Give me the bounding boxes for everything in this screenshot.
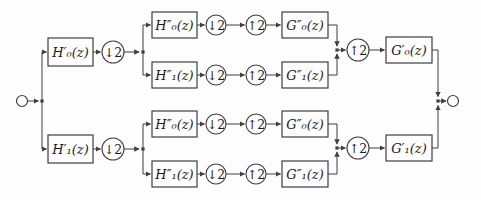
upsampler-label: ↑2: [247, 117, 265, 132]
upsampler-label: ↑2: [349, 141, 367, 156]
analysis-filter-h1-dblprime-top-label: H″₁(z): [154, 68, 193, 83]
analysis-filter-h0-dblprime-top-label: H″₀(z): [154, 18, 193, 33]
filter-boxes: H′₀(z) H′₁(z) H″₀(z) H″₁(z) G″₀(z) G″₁(z…: [48, 12, 432, 187]
input-junction-dot: [40, 99, 43, 102]
top-merge-junction-dot: [335, 48, 338, 51]
top-split-junction-dot: [141, 50, 144, 53]
synthesis-filter-g1-dblprime-bottom-label: G″₁(z): [286, 167, 323, 182]
sample-rate-nodes: ↓2 ↓2 ↓2 ↓2 ↓2 ↓2 ↑2 ↑2 ↑2 ↑2 ↑2 ↑2: [102, 15, 369, 184]
downsampler-label: ↓2: [207, 167, 225, 182]
synthesis-filter-g0-dblprime-bottom-label: G″₀(z): [286, 117, 323, 132]
synthesis-filter-g1-dblprime-top-label: G″₁(z): [286, 68, 323, 83]
downsampler-label: ↓2: [104, 142, 122, 157]
input-terminal: [17, 96, 28, 107]
upsampler-label: ↑2: [247, 167, 265, 182]
analysis-filter-h1-prime-label: H′₁(z): [51, 142, 89, 157]
analysis-filter-h0-prime-label: H′₀(z): [51, 45, 89, 60]
output-junction-dot: [436, 99, 439, 102]
downsampler-label: ↓2: [104, 45, 122, 60]
upsampler-label: ↑2: [247, 18, 265, 33]
bottom-split-junction-dot: [141, 147, 144, 150]
synthesis-filter-g1-prime-label: G′₁(z): [391, 141, 427, 156]
synthesis-filter-g0-dblprime-top-label: G″₀(z): [286, 18, 323, 33]
downsampler-label: ↓2: [207, 18, 225, 33]
downsampler-label: ↓2: [207, 117, 225, 132]
synthesis-filter-g0-prime-label: G′₀(z): [391, 43, 427, 58]
bottom-merge-junction-dot: [335, 146, 338, 149]
upsampler-label: ↑2: [247, 68, 265, 83]
upsampler-label: ↑2: [349, 43, 367, 58]
downsampler-label: ↓2: [207, 68, 225, 83]
junction-dots: [40, 48, 439, 150]
analysis-filter-h0-dblprime-bottom-label: H″₀(z): [154, 117, 193, 132]
output-terminal: [448, 96, 459, 107]
analysis-filter-h1-dblprime-bottom-label: H″₁(z): [154, 167, 193, 182]
filter-bank-diagram: H′₀(z) H′₁(z) H″₀(z) H″₁(z) G″₀(z) G″₁(z…: [0, 0, 481, 200]
